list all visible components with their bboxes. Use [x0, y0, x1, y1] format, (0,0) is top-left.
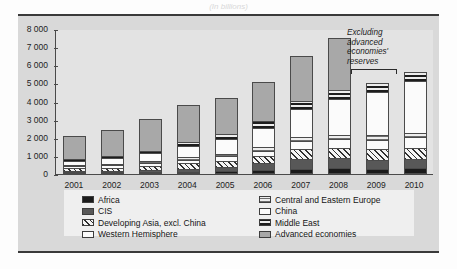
bottom-rule [18, 251, 439, 253]
x-axis-label-2005: 2005 [205, 180, 245, 190]
y-axis-tick-mark [54, 84, 58, 85]
y-axis-tick: 0 [0, 175, 55, 176]
bar-segment-africa [139, 172, 162, 174]
bar-segment-africa [177, 172, 200, 174]
y-axis-tick: 6 000 [0, 66, 55, 67]
bar-2009[interactable] [366, 83, 389, 174]
legend-column-right: Central and Eastern EuropeChinaMiddle Ea… [259, 194, 380, 240]
y-axis-tick-mark [54, 121, 58, 122]
bar-segment-asia [252, 156, 275, 163]
bar-2010[interactable] [404, 72, 427, 174]
white-outline-swatch [259, 208, 271, 215]
bar-segment-cis [366, 160, 389, 169]
x-axis-label-2008: 2008 [319, 180, 359, 190]
y-axis-tick: 8 000 [0, 30, 55, 31]
bar-segment-me [404, 72, 427, 81]
bar-2005[interactable] [215, 98, 238, 174]
bar-2002[interactable] [101, 130, 124, 174]
bar-segment-africa [101, 172, 124, 174]
legend-item-china[interactable]: China [259, 206, 380, 217]
horizontal-band-dark-swatch [259, 219, 271, 226]
y-axis-tick: 7 000 [0, 48, 55, 49]
legend-label-cee: Central and Eastern Europe [275, 195, 380, 205]
legend-label-cis: CIS [98, 206, 112, 216]
exclusion-annotation: Excluding advanced economies' reserves [347, 28, 431, 66]
legend-item-africa[interactable]: Africa [82, 194, 206, 205]
chart-figure: (In billions) Excluding advanced economi… [0, 0, 457, 269]
x-axis-label-2006: 2006 [243, 180, 283, 190]
bar-segment-wh [404, 137, 427, 147]
bar-segment-me [328, 90, 351, 99]
y-axis-tick-label: 6 000 [27, 60, 48, 70]
bar-segment-china [328, 99, 351, 134]
bar-segment-africa [63, 172, 86, 174]
bar-segment-wh [366, 140, 389, 149]
legend-label-asia: Developing Asia, excl. China [98, 218, 206, 228]
y-axis-tick-mark [54, 157, 58, 158]
legend-item-wh[interactable]: Western Hemisphere [82, 229, 206, 240]
y-axis-tick-mark [54, 175, 58, 176]
bar-2006[interactable] [252, 82, 275, 174]
bar-2004[interactable] [177, 105, 200, 174]
y-axis-tick-label: 8 000 [27, 24, 48, 34]
legend-item-me[interactable]: Middle East [259, 217, 380, 228]
bar-segment-africa [215, 171, 238, 174]
legend-item-asia[interactable]: Developing Asia, excl. China [82, 217, 206, 228]
y-axis-tick-label: 7 000 [27, 42, 48, 52]
bar-2003[interactable] [139, 119, 162, 175]
bar-segment-cis [328, 158, 351, 168]
bar-segment-africa [328, 168, 351, 174]
y-axis-tick-label: 4 000 [27, 97, 48, 107]
legend-label-china: China [275, 206, 297, 216]
bar-segment-adv [139, 119, 162, 151]
x-axis-label-2002: 2002 [92, 180, 132, 190]
bar-segment-cis [290, 159, 313, 169]
bar-segment-africa [252, 170, 275, 174]
annotation-line-3: economies' [347, 47, 431, 57]
solid-medium-gray-swatch [259, 231, 271, 238]
bar-segment-china [215, 139, 238, 154]
legend-item-adv[interactable]: Advanced economies [259, 229, 380, 240]
bar-2001[interactable] [63, 136, 86, 174]
chart-legend: AfricaCISDeveloping Asia, excl. ChinaWes… [64, 190, 414, 236]
y-axis-tick: 1 000 [0, 157, 55, 158]
bar-segment-me [290, 101, 313, 109]
y-axis-tick-mark [54, 103, 58, 104]
bar-segment-wh [290, 141, 313, 149]
x-axis-label-2003: 2003 [130, 180, 170, 190]
bar-segment-asia [328, 148, 351, 158]
bar-segment-africa [290, 169, 313, 174]
bar-2007[interactable] [290, 56, 313, 174]
x-axis-label-2001: 2001 [54, 180, 94, 190]
legend-label-africa: Africa [98, 195, 120, 205]
bar-segment-adv [101, 130, 124, 156]
solid-black-swatch [82, 196, 94, 203]
bar-segment-china [290, 109, 313, 137]
y-axis-tick-label: 5 000 [27, 78, 48, 88]
legend-label-me: Middle East [275, 218, 319, 228]
y-axis-tick-mark [54, 30, 58, 31]
legend-item-cee[interactable]: Central and Eastern Europe [259, 194, 380, 205]
bar-segment-africa [366, 169, 389, 174]
bar-segment-asia [366, 149, 389, 160]
legend-label-wh: Western Hemisphere [98, 229, 178, 239]
bar-segment-africa [404, 168, 427, 174]
bar-segment-china [177, 146, 200, 157]
y-axis-tick-mark [54, 48, 58, 49]
solid-dark-gray-swatch [82, 208, 94, 215]
diagonal-hatch-swatch [82, 219, 94, 226]
y-axis-tick-label: 3 000 [27, 115, 48, 125]
x-axis-label-2007: 2007 [281, 180, 321, 190]
bar-segment-adv [177, 105, 200, 142]
annotation-line-2: advanced [347, 38, 431, 48]
bar-segment-adv [290, 56, 313, 101]
annotation-line-4: reserves [347, 57, 431, 67]
y-axis-tick-label: 1 000 [27, 151, 48, 161]
bar-segment-wh [328, 139, 351, 148]
bar-segment-adv [252, 82, 275, 122]
y-axis-tick-label: 2 000 [27, 133, 48, 143]
legend-column-left: AfricaCISDeveloping Asia, excl. ChinaWes… [82, 194, 206, 240]
legend-item-cis[interactable]: CIS [82, 206, 206, 217]
bar-segment-cis [404, 159, 427, 168]
annotation-bracket [351, 69, 397, 70]
